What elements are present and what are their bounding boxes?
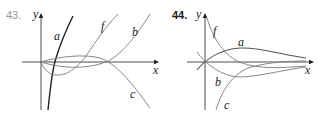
fig43-curve-c-label: c — [130, 87, 136, 101]
fig43-curve-f — [41, 14, 118, 75]
fig44-curve-a-label: a — [238, 35, 244, 49]
figures-canvas: y x a f b c y x f a b c — [0, 0, 318, 123]
fig43-curve-f-label: f — [101, 19, 106, 33]
fig43-x-label: x — [152, 63, 159, 77]
fig44-curve-f — [207, 18, 306, 68]
fig43-curve-a — [48, 16, 73, 110]
fig44-x-label: x — [304, 63, 311, 77]
fig43-curve-a-label: a — [54, 29, 60, 43]
fig44-curve-c-label: c — [224, 98, 230, 112]
fig44-curve-b-label: b — [215, 75, 221, 89]
fig44-curve-f-label: f — [213, 24, 218, 38]
fig43-y-label: y — [32, 7, 39, 21]
fig44-y-label: y — [195, 7, 202, 21]
figure-43: y x a f b c — [22, 7, 159, 110]
fig43-curve-b-label: b — [132, 25, 138, 39]
figure-44: y x f a b c — [187, 7, 313, 112]
fig44-curve-c — [216, 61, 306, 110]
